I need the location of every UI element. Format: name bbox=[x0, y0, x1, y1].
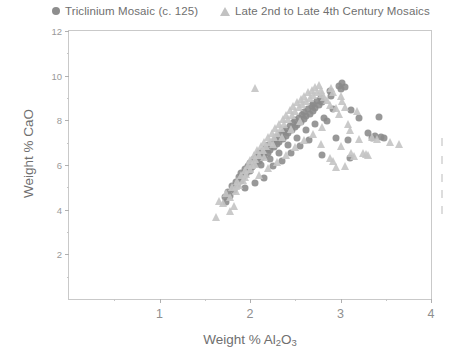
data-point-triangle bbox=[291, 143, 299, 151]
data-point-triangle bbox=[355, 135, 363, 143]
data-point-triangle bbox=[350, 152, 358, 160]
x-axis-title-mid: O bbox=[281, 332, 292, 347]
data-point-triangle bbox=[287, 125, 295, 133]
x-tick-minor bbox=[386, 299, 387, 301]
x-tick-major bbox=[160, 299, 161, 303]
artifact-fragment bbox=[441, 206, 443, 214]
artifact-fragment bbox=[441, 138, 443, 146]
x-tick-major bbox=[250, 299, 251, 303]
legend-entry-late-mosaics: Late 2nd to Late 4th Century Mosaics bbox=[220, 5, 430, 17]
data-point-circle bbox=[355, 115, 362, 122]
y-tick-minor bbox=[67, 187, 69, 188]
legend-label-late-mosaics: Late 2nd to Late 4th Century Mosaics bbox=[235, 5, 430, 17]
artifact-fragment bbox=[441, 174, 443, 182]
data-point-triangle bbox=[329, 157, 337, 165]
data-point-circle bbox=[344, 137, 351, 144]
data-point-triangle bbox=[309, 130, 317, 138]
x-tick-label: 3 bbox=[337, 307, 344, 321]
y-tick-label: 6 bbox=[57, 160, 62, 171]
data-point-triangle bbox=[300, 136, 308, 144]
x-tick-label: 4 bbox=[428, 307, 435, 321]
data-point-triangle bbox=[232, 182, 240, 190]
y-tick-major bbox=[65, 210, 69, 211]
y-tick-label: 4 bbox=[57, 204, 62, 215]
x-tick-label: 1 bbox=[156, 307, 163, 321]
circle-marker-icon bbox=[52, 7, 60, 15]
data-point-triangle bbox=[318, 123, 326, 131]
data-point-triangle bbox=[364, 151, 372, 159]
y-tick-label: 12 bbox=[51, 26, 62, 37]
triangle-marker-icon bbox=[220, 7, 230, 16]
data-point-circle bbox=[342, 83, 349, 90]
data-point-triangle bbox=[373, 135, 381, 143]
data-point-triangle bbox=[296, 117, 304, 125]
data-point-circle bbox=[375, 113, 382, 120]
x-axis-title-prefix: Weight % Al bbox=[203, 332, 276, 347]
x-axis-title: Weight % Al2O3 bbox=[68, 332, 432, 347]
data-point-triangle bbox=[212, 213, 220, 221]
x-tick-major bbox=[341, 299, 342, 303]
x-axis-title-sub-2: 2 bbox=[276, 337, 281, 348]
y-tick-minor bbox=[67, 53, 69, 54]
x-tick-label: 2 bbox=[247, 307, 254, 321]
y-axis-title: Weight % CaO bbox=[21, 64, 36, 244]
data-point-triangle bbox=[260, 153, 268, 161]
data-point-triangle bbox=[269, 140, 277, 148]
data-point-triangle bbox=[341, 162, 349, 170]
y-tick-major bbox=[65, 254, 69, 255]
y-tick-minor bbox=[67, 232, 69, 233]
artifact-fragment bbox=[441, 190, 443, 198]
data-point-triangle bbox=[346, 126, 354, 134]
data-point-triangle bbox=[353, 107, 361, 115]
y-tick-label: 10 bbox=[51, 70, 62, 81]
data-point-triangle bbox=[241, 173, 249, 181]
data-point-triangle bbox=[255, 171, 263, 179]
data-point-triangle bbox=[226, 207, 234, 215]
data-point-triangle bbox=[251, 160, 259, 168]
data-point-triangle bbox=[395, 140, 403, 148]
y-tick-label: 8 bbox=[57, 115, 62, 126]
y-tick-major bbox=[65, 165, 69, 166]
data-point-circle bbox=[332, 135, 339, 142]
y-tick-major bbox=[65, 31, 69, 32]
x-tick-minor bbox=[114, 299, 115, 301]
data-point-circle bbox=[321, 115, 328, 122]
data-point-triangle bbox=[273, 158, 281, 166]
chart-legend: Triclinium Mosaic (c. 125) Late 2nd to L… bbox=[52, 4, 442, 24]
artifact-fragment bbox=[441, 156, 443, 164]
x-tick-major bbox=[431, 299, 432, 303]
x-tick-minor bbox=[295, 299, 296, 301]
cropped-neighbor-artifact bbox=[438, 138, 449, 220]
legend-entry-triclinium: Triclinium Mosaic (c. 125) bbox=[52, 5, 198, 17]
data-point-triangle bbox=[282, 151, 290, 159]
y-tick-major bbox=[65, 76, 69, 77]
data-point-triangle bbox=[251, 84, 259, 92]
data-point-triangle bbox=[386, 138, 394, 146]
data-point-triangle bbox=[317, 140, 325, 148]
scatter-plot-figure: Triclinium Mosaic (c. 125) Late 2nd to L… bbox=[0, 0, 449, 361]
data-point-triangle bbox=[264, 164, 272, 172]
data-point-triangle bbox=[337, 142, 345, 150]
data-point-circle bbox=[251, 179, 258, 186]
x-axis-title-sub-3: 3 bbox=[292, 337, 297, 348]
y-tick-label: 2 bbox=[57, 249, 62, 260]
y-tick-minor bbox=[67, 277, 69, 278]
y-tick-minor bbox=[67, 98, 69, 99]
plot-canvas bbox=[69, 31, 431, 299]
y-tick-major bbox=[65, 120, 69, 121]
data-point-triangle bbox=[341, 103, 349, 111]
y-tick-minor bbox=[67, 143, 69, 144]
legend-label-triclinium: Triclinium Mosaic (c. 125) bbox=[65, 5, 198, 17]
plot-area-frame: 24681012 1234 bbox=[68, 30, 432, 300]
data-point-triangle bbox=[278, 133, 286, 141]
x-tick-minor bbox=[205, 299, 206, 301]
